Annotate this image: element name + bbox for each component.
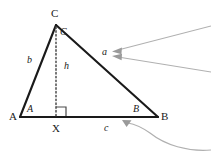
angle-label-A: A xyxy=(27,104,33,114)
side-label-c: c xyxy=(104,123,108,133)
vertex-label-X: X xyxy=(52,123,60,134)
side-label-a: a xyxy=(102,47,107,57)
triangle-diagram: C A B X C A B b a c h xyxy=(0,0,211,153)
side-b-line xyxy=(20,25,56,117)
vertex-label-C: C xyxy=(51,8,58,19)
angle-label-C: C xyxy=(60,27,67,37)
side-label-h: h xyxy=(64,61,69,71)
callout-arrow-upper-to-side-a xyxy=(112,26,211,54)
vertex-label-B: B xyxy=(161,111,168,122)
right-angle-marker xyxy=(56,107,66,116)
side-a-line xyxy=(56,25,158,117)
callout-arrow-lower-to-side-a xyxy=(112,54,211,72)
angle-label-B: B xyxy=(133,104,139,114)
vertex-label-A: A xyxy=(9,111,17,122)
side-label-b: b xyxy=(27,55,32,65)
callout-arrow-curved-to-side-c xyxy=(122,120,211,150)
